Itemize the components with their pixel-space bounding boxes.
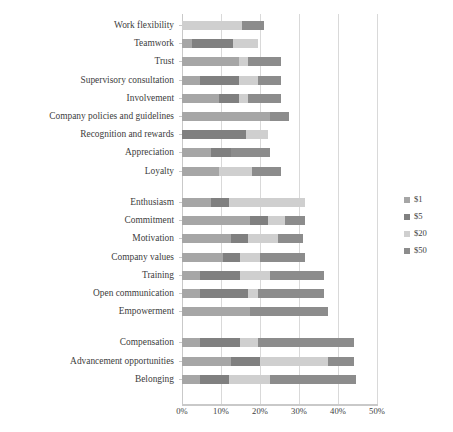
bar-segment xyxy=(270,112,290,121)
y-axis-tick xyxy=(179,171,182,172)
bar-segment xyxy=(229,375,270,384)
bar-row xyxy=(182,167,281,176)
bar-segment xyxy=(182,148,211,157)
y-axis-tick xyxy=(179,342,182,343)
bar-row xyxy=(182,94,281,103)
bar-segment xyxy=(233,39,258,48)
bar-segment xyxy=(239,94,249,103)
bar-segment xyxy=(182,94,219,103)
bar-row xyxy=(182,198,305,207)
bar-segment xyxy=(248,234,277,243)
x-tick-label: 20% xyxy=(252,406,268,416)
bar-row xyxy=(182,21,264,30)
bar-segment xyxy=(285,216,305,225)
bar-row xyxy=(182,148,270,157)
x-tick-label: 50% xyxy=(369,406,385,416)
legend-label: $20 xyxy=(414,229,427,238)
category-label: Training xyxy=(0,270,178,280)
bar-segment xyxy=(252,167,281,176)
y-axis-tick xyxy=(179,116,182,117)
bar-row xyxy=(182,271,324,280)
legend-item[interactable]: $50 xyxy=(404,242,427,259)
y-axis-tick xyxy=(179,220,182,221)
bar-segment xyxy=(278,234,303,243)
legend-swatch-icon xyxy=(404,197,410,203)
y-axis-tick xyxy=(179,134,182,135)
bar-row xyxy=(182,357,354,366)
bar-segment xyxy=(182,289,200,298)
bar-segment xyxy=(182,112,270,121)
x-tick-label: 30% xyxy=(291,406,307,416)
legend-item[interactable]: $5 xyxy=(404,208,427,225)
category-label: Loyalty xyxy=(0,166,178,176)
bar-segment xyxy=(240,338,258,347)
bar-segment xyxy=(182,234,231,243)
bar-segment xyxy=(268,216,286,225)
bar-segment xyxy=(231,148,270,157)
y-axis-tick xyxy=(179,61,182,62)
bar-segment xyxy=(246,130,267,139)
bar-segment xyxy=(182,216,250,225)
bar-segment xyxy=(219,167,252,176)
bar-segment xyxy=(182,307,250,316)
bar-segment xyxy=(182,76,200,85)
bar-segment xyxy=(328,357,353,366)
bar-segment xyxy=(260,253,305,262)
bar-segment xyxy=(258,289,324,298)
category-label: Appreciation xyxy=(0,147,178,157)
y-axis-tick xyxy=(179,80,182,81)
bar-segment xyxy=(242,21,263,30)
legend-swatch-icon xyxy=(404,248,410,254)
bar-segment xyxy=(270,271,325,280)
category-label: Belonging xyxy=(0,374,178,384)
bar-segment xyxy=(240,253,260,262)
bar-row xyxy=(182,253,305,262)
bar-segment xyxy=(200,289,249,298)
category-label: Commitment xyxy=(0,215,178,225)
bar-segment xyxy=(223,253,241,262)
bar-segment xyxy=(200,375,229,384)
bar-row xyxy=(182,289,324,298)
bar-row xyxy=(182,307,328,316)
bar-segment xyxy=(239,57,249,66)
bar-segment xyxy=(182,375,200,384)
legend-swatch-icon xyxy=(404,214,410,220)
bar-segment xyxy=(229,198,305,207)
category-label: Company values xyxy=(0,252,178,262)
bar-segment xyxy=(258,338,354,347)
legend-item[interactable]: $1 xyxy=(404,191,427,208)
category-label: Supervisory consultation xyxy=(0,75,178,85)
legend-swatch-icon xyxy=(404,231,410,237)
bar-segment xyxy=(219,94,239,103)
bar-row xyxy=(182,234,303,243)
category-axis-labels: Work flexibilityTeamworkTrustSupervisory… xyxy=(0,0,178,432)
category-label: Empowerment xyxy=(0,306,178,316)
y-axis-tick xyxy=(179,238,182,239)
stacked-bar-chart: Work flexibilityTeamworkTrustSupervisory… xyxy=(0,0,453,432)
y-axis-tick xyxy=(179,311,182,312)
bar-row xyxy=(182,338,354,347)
category-label: Open communication xyxy=(0,288,178,298)
bar-segment xyxy=(270,375,356,384)
bar-segment xyxy=(200,76,239,85)
bar-segment xyxy=(211,148,231,157)
category-label: Company policies and guidelines xyxy=(0,111,178,121)
y-axis-tick xyxy=(179,43,182,44)
bar-segment xyxy=(250,216,268,225)
legend-label: $5 xyxy=(414,212,423,221)
y-axis-tick xyxy=(179,379,182,380)
category-label: Motivation xyxy=(0,233,178,243)
bar-segment xyxy=(182,271,200,280)
bar-segment xyxy=(258,76,281,85)
x-tick-label: 40% xyxy=(330,406,346,416)
category-label: Trust xyxy=(0,56,178,66)
y-axis-tick xyxy=(179,202,182,203)
bar-row xyxy=(182,76,281,85)
category-label: Advancement opportunities xyxy=(0,356,178,366)
bar-segment xyxy=(182,21,242,30)
y-axis-tick xyxy=(179,275,182,276)
legend-item[interactable]: $20 xyxy=(404,225,427,242)
gridline-50pct xyxy=(377,14,378,404)
bar-segment xyxy=(240,271,269,280)
category-label: Teamwork xyxy=(0,38,178,48)
